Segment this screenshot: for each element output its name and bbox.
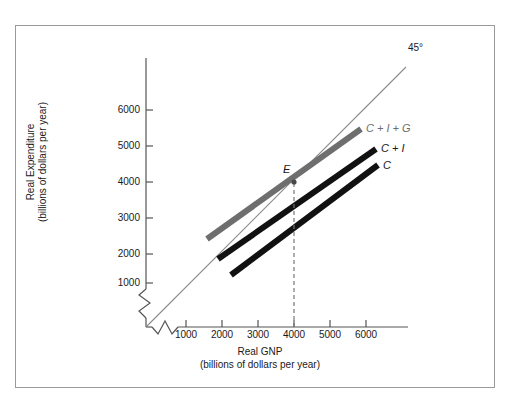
x-tick-label-3000: 3000 bbox=[238, 329, 278, 340]
equilibrium-label: E bbox=[283, 163, 290, 175]
curve-c-plus-i-plus-g bbox=[207, 129, 361, 239]
forty-five-degree-label: 45° bbox=[408, 42, 423, 53]
x-tick-label-2000: 2000 bbox=[202, 329, 242, 340]
y-tick-label-5000: 5000 bbox=[100, 140, 140, 151]
y-axis-title: Real Expenditure (billions of dollars pe… bbox=[25, 87, 49, 237]
y-tick-label-3000: 3000 bbox=[100, 212, 140, 223]
x-axis-title-line1: Real GNP bbox=[150, 345, 370, 358]
curve-label-c-plus-i-plus-g: C + I + G bbox=[366, 122, 411, 134]
forty-five-degree-line bbox=[147, 67, 406, 326]
y-axis-break-icon bbox=[139, 289, 150, 318]
curve-c-plus-i bbox=[218, 149, 376, 259]
x-tick-label-4000: 4000 bbox=[274, 329, 314, 340]
equilibrium-point-marker bbox=[291, 179, 296, 184]
x-tick-label-5000: 5000 bbox=[310, 329, 350, 340]
y-tick-label-2000: 2000 bbox=[100, 248, 140, 259]
curve-label-c: C bbox=[383, 159, 391, 171]
y-tick-label-6000: 6000 bbox=[100, 104, 140, 115]
y-axis-title-line2: (billions of dollars per year) bbox=[37, 87, 49, 237]
y-tick-label-1000: 1000 bbox=[100, 277, 140, 288]
x-tick-label-1000: 1000 bbox=[166, 329, 206, 340]
x-tick-label-6000: 6000 bbox=[346, 329, 386, 340]
x-axis-title-line2: (billions of dollars per year) bbox=[150, 358, 370, 371]
y-axis-title-line1: Real Expenditure bbox=[25, 87, 37, 237]
curve-label-c-plus-i: C + I bbox=[381, 142, 405, 154]
y-tick-label-4000: 4000 bbox=[100, 176, 140, 187]
x-axis-title: Real GNP (billions of dollars per year) bbox=[150, 345, 370, 371]
